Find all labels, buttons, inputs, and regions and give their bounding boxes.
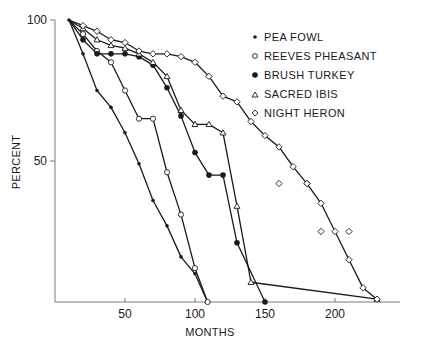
start-point-marker-icon [67,18,71,22]
small-dot-marker-icon [137,162,141,166]
open-diamond-marker-icon [318,228,324,234]
open-circle-marker-icon [192,266,197,271]
legend-item-brush-turkey: BRUSH TURKEY [252,69,355,81]
open-diamond-marker-icon [108,37,114,43]
filled-circle-marker-icon [108,51,114,57]
legend-item-reeves-pheasant: REEVES PHEASANT [253,50,377,62]
open-triangle-marker-icon [234,203,240,208]
open-diamond-marker-icon [332,228,338,234]
open-diamond-marker-icon [346,257,352,263]
small-dot-marker-icon [123,131,127,135]
open-circle-marker-icon [205,299,210,304]
open-triangle-icon [252,92,258,97]
x-tick-label-200: 200 [325,307,345,321]
small-dot-marker-icon [179,255,183,259]
small-dot-marker-icon [151,199,155,203]
open-diamond-marker-icon [94,28,100,34]
filled-circle-marker-icon [80,37,86,43]
open-diamond-marker-icon [122,39,128,45]
open-diamond-marker-icon [80,22,86,28]
filled-circle-marker-icon [262,299,268,305]
open-diamond-marker-icon [178,53,184,59]
y-axis-title: PERCENT [10,135,22,190]
series-line [69,20,208,302]
legend: PEA FOWL REEVES PHEASANT BRUSH TURKEY SA… [252,31,377,119]
filled-circle-marker-icon [178,113,184,119]
open-triangle-marker-icon [150,59,156,64]
filled-circle-marker-icon [206,172,212,178]
open-circle-marker-icon [122,88,127,93]
open-diamond-icon [252,110,258,116]
filled-circle-marker-icon [94,51,100,57]
y-tick-label-50: 50 [34,154,48,168]
survival-chart: 100 50 50 100 150 200 MONTHS PERCENT PEA… [0,0,421,346]
open-diamond-marker-icon [150,51,156,57]
filled-circle-marker-icon [122,51,128,57]
open-diamond-marker-icon [346,228,352,234]
open-triangle-marker-icon [178,107,184,112]
legend-item-night-heron: NIGHT HERON [252,107,345,119]
legend-label: NIGHT HERON [264,107,345,119]
filled-circle-marker-icon [234,240,240,246]
small-dot-icon [253,35,257,39]
open-triangle-marker-icon [248,279,254,284]
small-dot-marker-icon [109,106,113,110]
x-tick-label-150: 150 [255,307,275,321]
small-dot-marker-icon [95,89,99,93]
filled-circle-marker-icon [192,150,198,156]
open-circle-marker-icon [178,212,183,217]
series-night-heron-unconnected-points [276,180,352,234]
legend-label: PEA FOWL [264,31,323,43]
open-triangle-marker-icon [220,130,226,135]
open-circle-marker-icon [136,116,141,121]
open-circle-marker-icon [108,60,113,65]
legend-item-sacred-ibis: SACRED IBIS [252,88,338,100]
filled-circle-marker-icon [164,85,170,91]
legend-item-pea-fowl: PEA FOWL [253,31,323,43]
x-tick-label-50: 50 [118,307,132,321]
open-diamond-marker-icon [164,51,170,57]
filled-circle-marker-icon [220,172,226,178]
series-pea-fowl [69,20,209,304]
open-circle-icon [253,54,258,59]
x-tick-label-100: 100 [185,307,205,321]
open-circle-marker-icon [80,31,85,36]
open-circle-marker-icon [164,170,169,175]
legend-label: BRUSH TURKEY [264,69,355,81]
series-line [69,20,265,302]
y-tick-label-100: 100 [27,13,47,27]
filled-circle-icon [252,72,258,78]
series-brush-turkey [69,20,268,305]
series-sacred-ibis [69,20,380,301]
series-night-heron [69,20,380,302]
small-dot-marker-icon [165,224,169,228]
small-dot-marker-icon [81,52,85,56]
open-circle-marker-icon [150,116,155,121]
x-axis-title: MONTHS [185,326,234,338]
legend-label: REEVES PHEASANT [264,50,377,62]
open-diamond-marker-icon [276,180,282,186]
legend-label: SACRED IBIS [264,88,338,100]
